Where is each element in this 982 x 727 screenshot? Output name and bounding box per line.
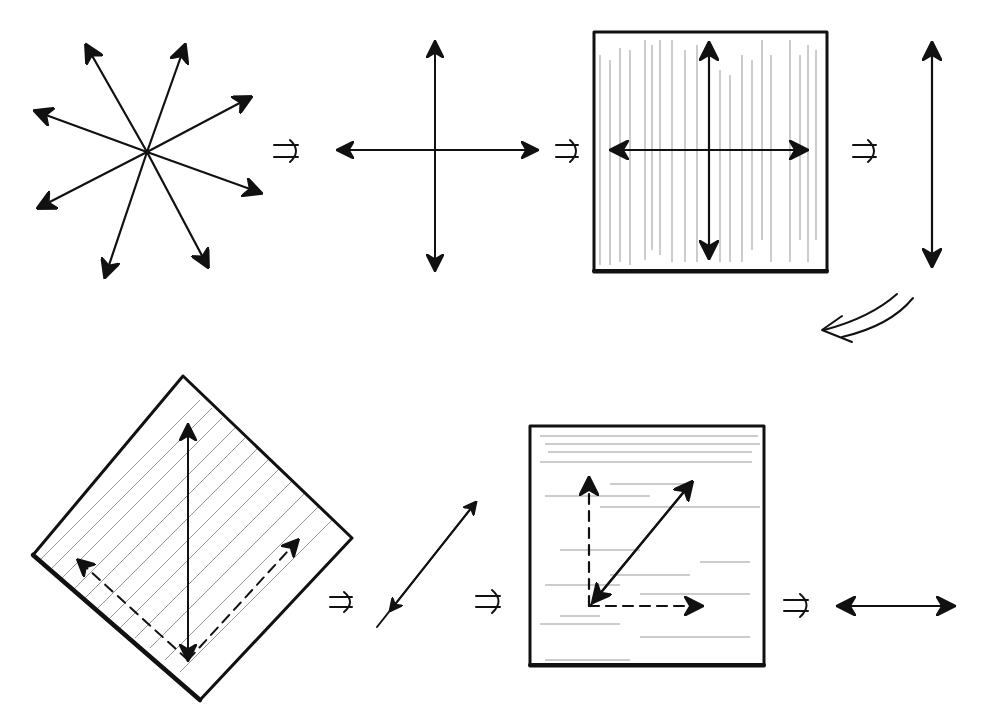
transition-arrow-4 [330, 592, 352, 612]
transition-arrow-5 [476, 590, 500, 613]
horizontal-polarizing-filter [530, 426, 764, 666]
diagram-canvas [0, 0, 982, 727]
transition-arrow-2 [556, 140, 578, 162]
polarization-diagram: Polarization of light through polarizing… [0, 0, 982, 727]
curved-transition-arrow [822, 294, 913, 342]
unpolarized-light-star [35, 45, 261, 277]
transition-arrow-6 [784, 594, 808, 617]
vh-components [338, 42, 537, 270]
diagonal-polarized-light [377, 502, 476, 627]
transition-arrow-3 [853, 140, 876, 162]
vertical-polarizing-filter [594, 32, 827, 272]
transition-arrow-1 [274, 140, 298, 162]
diagonal-polarizing-filter [33, 376, 352, 700]
